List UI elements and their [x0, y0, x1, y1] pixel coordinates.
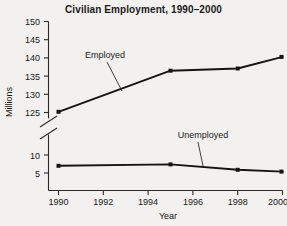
y-tick-label-140: 140: [25, 53, 40, 63]
annotation-leader-employed: [107, 62, 122, 91]
y-tick-label-5: 5: [35, 169, 40, 179]
chart-figure: Civilian Employment, 1990–2000 150 145 1…: [0, 0, 287, 226]
annotation-leader-unemployed: [198, 142, 203, 166]
x-tick-label-1994: 1994: [138, 197, 158, 207]
series-line-employed: [59, 57, 283, 112]
data-point-unemployed-1990: [57, 164, 61, 168]
annotation-employed: Employed: [85, 50, 125, 60]
data-point-unemployed-1998: [236, 168, 240, 172]
x-tick-label-1998: 1998: [228, 197, 248, 207]
y-tick-label-135: 135: [25, 72, 40, 82]
data-point-employed-1990: [57, 110, 61, 114]
y-tick-label-125: 125: [25, 108, 40, 118]
data-point-employed-2000: [280, 55, 284, 59]
x-axis-title: Year: [159, 211, 177, 221]
x-tick-label-1990: 1990: [48, 197, 68, 207]
y-tick-label-130: 130: [25, 90, 40, 100]
y-tick-label-145: 145: [25, 35, 40, 45]
annotation-unemployed: Unemployed: [178, 130, 229, 140]
y-tick-label-150: 150: [25, 17, 40, 27]
data-point-unemployed-2000: [280, 170, 284, 174]
chart-plot-area: 150 145 140 135 130 125 10 5 Millions 19…: [0, 0, 287, 226]
data-point-employed-1998: [236, 67, 240, 71]
x-tick-label-2000: 2000: [268, 197, 287, 207]
x-tick-label-1992: 1992: [93, 197, 113, 207]
data-point-employed-1995: [169, 69, 173, 73]
y-axis-title: Millions: [4, 86, 14, 117]
y-tick-label-10: 10: [30, 151, 40, 161]
x-tick-label-1996: 1996: [183, 197, 203, 207]
data-point-unemployed-1995: [169, 162, 173, 166]
